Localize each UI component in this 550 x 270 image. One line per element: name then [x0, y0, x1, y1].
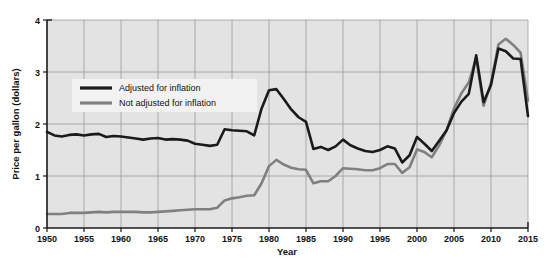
x-tick-label: 1970 — [185, 234, 205, 244]
y-axis-title: Price per gallon (dollars) — [10, 68, 21, 179]
x-tick-label: 2010 — [481, 234, 501, 244]
y-tick-label: 1 — [35, 172, 40, 182]
chart-canvas: 01234 1950195519601965197019751980198519… — [0, 0, 550, 270]
y-tick-label: 3 — [35, 68, 40, 78]
y-tick-label: 0 — [35, 224, 40, 234]
legend-label-adjusted: Adjusted for inflation — [119, 83, 201, 93]
gas-price-line-chart: 01234 1950195519601965197019751980198519… — [0, 0, 550, 270]
x-tick-label: 1990 — [333, 234, 353, 244]
x-tick-label: 1995 — [370, 234, 390, 244]
x-tick-label: 1950 — [37, 234, 57, 244]
x-tick-label: 1980 — [259, 234, 279, 244]
x-tick-label: 1965 — [148, 234, 168, 244]
x-tick-label: 1975 — [222, 234, 242, 244]
x-tick-label: 1955 — [74, 234, 94, 244]
x-tick-label: 2005 — [444, 234, 464, 244]
x-tick-label: 2015 — [518, 234, 538, 244]
x-tick-label: 2000 — [407, 234, 427, 244]
x-tick-label: 1960 — [111, 234, 131, 244]
legend-label-not-adjusted: Not adjusted for inflation — [119, 98, 216, 108]
x-tick-label: 1985 — [296, 234, 316, 244]
x-axis-title: Year — [277, 246, 297, 257]
y-tick-label: 2 — [35, 120, 40, 130]
chart-legend: Adjusted for inflation Not adjusted for … — [72, 79, 257, 112]
y-tick-label: 4 — [35, 16, 40, 26]
